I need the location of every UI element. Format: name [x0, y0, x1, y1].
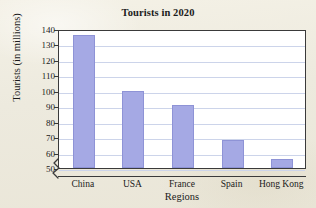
gridline — [59, 77, 305, 78]
y-tick-label: 140 — [25, 26, 55, 35]
y-tick-label: 80 — [25, 118, 55, 127]
y-tick-label: 100 — [25, 87, 55, 96]
y-tick-mark — [54, 76, 58, 77]
x-tick-label: Spain — [221, 179, 243, 189]
x-tick-label: China — [71, 179, 94, 189]
y-tick-label: 70 — [25, 134, 55, 143]
y-tick-label: 130 — [25, 41, 55, 50]
bar-china — [73, 35, 95, 168]
gridline — [59, 62, 305, 63]
y-axis-title: Tourists (in millions) — [11, 0, 22, 118]
gridline — [59, 170, 305, 171]
x-tick-label: France — [169, 179, 195, 189]
bar-hong-kong — [271, 159, 293, 168]
y-tick-mark — [54, 30, 58, 31]
x-axis-title: Regions — [58, 191, 306, 202]
chart-title: Tourists in 2020 — [0, 7, 316, 18]
y-tick-label: 120 — [25, 56, 55, 65]
y-tick-label: 110 — [25, 72, 55, 81]
x-tick-label: USA — [123, 179, 142, 189]
y-tick-mark — [54, 138, 58, 139]
y-tick-mark — [54, 45, 58, 46]
gridline — [59, 46, 305, 47]
bar-chart: Tourists in 2020 Tourists (in millions) … — [0, 0, 316, 208]
y-tick-mark — [54, 154, 58, 155]
y-tick-mark — [54, 92, 58, 93]
plot-area — [58, 30, 306, 169]
gridline — [59, 93, 305, 94]
y-tick-label: 60 — [25, 149, 55, 158]
bar-usa — [122, 91, 144, 168]
y-tick-mark — [54, 107, 58, 108]
y-tick-label: 90 — [25, 103, 55, 112]
bar-france — [172, 105, 194, 168]
x-tick-label: Hong Kong — [259, 179, 304, 189]
bar-spain — [222, 140, 244, 168]
y-tick-mark — [54, 123, 58, 124]
x-axis-line — [58, 176, 306, 177]
y-tick-mark — [54, 61, 58, 62]
